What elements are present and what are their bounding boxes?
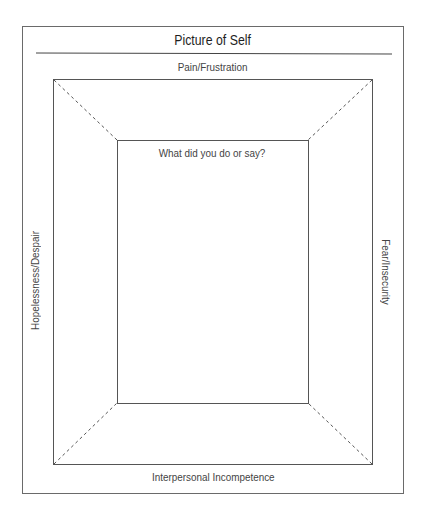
worksheet-frame <box>0 0 426 523</box>
middle-box <box>54 80 373 465</box>
diagonal-top-left <box>54 80 117 140</box>
label-center-prompt: What did you do or say? <box>117 147 308 159</box>
page-title: Picture of Self <box>0 32 426 48</box>
outer-border <box>23 27 404 494</box>
label-top: Pain/Frustration <box>0 61 426 73</box>
diagonal-top-right <box>308 80 372 140</box>
label-left: Hopelessness/Despair <box>28 180 42 380</box>
diagonal-bottom-left <box>54 403 117 464</box>
label-bottom: Interpersonal Incompetence <box>0 471 426 483</box>
inner-box[interactable] <box>118 141 309 404</box>
title-divider <box>36 53 392 54</box>
diagonal-bottom-right <box>308 403 372 464</box>
label-right: Fear/Insecurity <box>379 172 393 372</box>
